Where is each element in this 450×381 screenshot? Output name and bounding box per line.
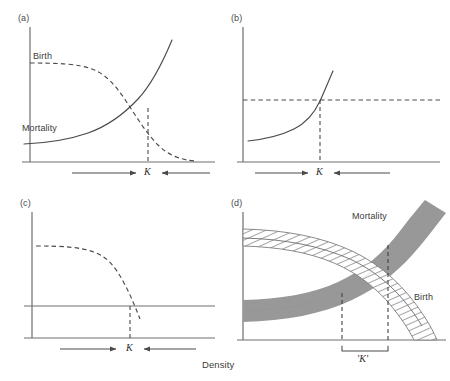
figure-canvas [0,0,450,381]
x-axis-title: Density [202,359,234,370]
panel-a-birth-curve [30,63,196,161]
panel-a [22,27,215,173]
panel-d-k-label: 'K' [357,353,368,364]
panel-c-birth-curve [36,246,140,319]
panel-a-birth-label: Birth [33,51,52,61]
panel-d-k-brace [342,346,388,351]
panel-d-birth-label: Birth [414,292,433,302]
panel-c [24,212,215,349]
panel-b-k-label: K [316,166,323,177]
panel-c-k-label: K [126,342,133,353]
panel-a-mortality-label: Mortality [22,123,57,133]
panel-d [237,200,446,351]
figure-population-regulation: (a) Birth Mortality K (b) K (c) K (d) Mo… [0,0,450,381]
panel-b [237,27,440,173]
panel-d-tag: (d) [231,198,242,208]
panel-b-tag: (b) [231,13,242,23]
panel-d-mortality-label: Mortality [352,211,387,221]
panel-a-tag: (a) [18,13,29,23]
panel-c-tag: (c) [20,198,31,208]
panel-a-k-label: K [144,166,151,177]
